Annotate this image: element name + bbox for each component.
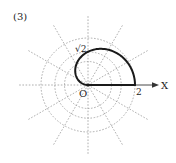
x-axis-arrow-icon [152, 82, 159, 87]
sqrt2-label: √2 [75, 44, 86, 54]
figure-label: (3) [13, 11, 27, 22]
polar-curve-path [75, 49, 135, 85]
x-axis-label: X [161, 80, 169, 91]
tick-label-2: 2 [136, 87, 142, 97]
grid-ray [88, 50, 149, 85]
origin-label: O [79, 88, 87, 99]
grid-ray [88, 85, 123, 146]
origin-point [86, 83, 89, 86]
polar-curve-figure: (3) X O 2 √2 [0, 0, 176, 163]
